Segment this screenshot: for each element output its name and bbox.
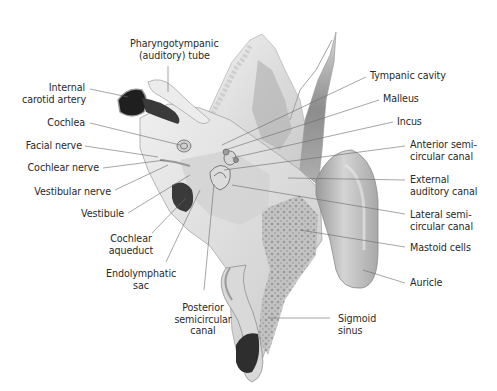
label-auricle: Auricle [410,277,442,289]
label-line: Auricle [410,277,442,289]
label-line: Vestibule [60,208,124,220]
label-line: Sigmoid [338,313,376,325]
label-line: Facial nerve [20,140,82,152]
label-cochlea: Cochlea [30,117,85,129]
label-line: Lateral semi- [410,209,473,221]
label-line: Tympanic cavity [370,70,446,82]
label-line: Mastoid cells [410,242,471,254]
label-malleus: Malleus [383,93,419,105]
label-external-auditory-canal: External auditory canal [410,174,477,197]
label-vestibular-nerve: Vestibular nerve [20,186,111,198]
label-cochlear-aqueduct: Cochlear aqueduct [108,233,154,256]
carotid-and-tube [118,80,210,124]
label-line: aqueduct [108,245,154,257]
label-line: Anterior semi- [410,139,477,151]
label-line: Vestibular nerve [20,186,111,198]
label-line: Malleus [383,93,419,105]
label-line: (auditory) tube [130,50,219,62]
label-line: Incus [397,116,422,128]
label-line: circular canal [410,151,477,163]
label-facial-nerve: Facial nerve [20,140,82,152]
label-tympanic-cavity: Tympanic cavity [370,70,446,82]
label-line: Internal [22,82,85,94]
auricle-shape [316,150,378,288]
label-line: Cochlear nerve [20,162,99,174]
label-pharyngotympanic-tube: Pharyngotympanic (auditory) tube [130,38,219,61]
label-line: semicircular [172,314,234,326]
label-incus: Incus [397,116,422,128]
label-line: Pharyngotympanic [130,38,219,50]
label-anterior-semicircular-canal: Anterior semi- circular canal [410,139,477,162]
label-line: Cochlear [108,233,154,245]
label-mastoid-cells: Mastoid cells [410,242,471,254]
anatomy-figure: Pharyngotympanic (auditory) tube Interna… [0,0,497,391]
label-line: Posterior [172,302,234,314]
label-line: sinus [338,325,376,337]
label-line: sac [106,280,176,292]
label-line: auditory canal [410,186,477,198]
label-line: carotid artery [22,94,85,106]
label-line: External [410,174,477,186]
label-internal-carotid-artery: Internal carotid artery [22,82,85,105]
label-line: canal [172,325,234,337]
label-line: Endolymphatic [106,268,176,280]
label-cochlear-nerve: Cochlear nerve [20,162,99,174]
label-line: circular canal [410,221,473,233]
label-line: Cochlea [30,117,85,129]
label-lateral-semicircular-canal: Lateral semi- circular canal [410,209,473,232]
label-vestibule: Vestibule [60,208,124,220]
label-sigmoid-sinus: Sigmoid sinus [338,313,376,336]
label-posterior-semicircular-canal: Posterior semicircular canal [172,302,234,337]
label-endolymphatic-sac: Endolymphatic sac [106,268,176,291]
